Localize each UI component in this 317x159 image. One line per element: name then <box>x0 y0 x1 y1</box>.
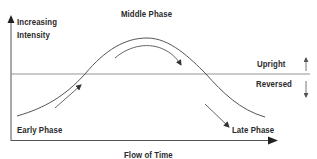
y-axis-label-line1: Increasing <box>17 17 57 27</box>
y-axis-arrow-icon <box>8 15 15 23</box>
upright-label: Upright <box>257 59 285 69</box>
late-phase-label: Late Phase <box>232 125 274 135</box>
x-axis <box>11 137 278 145</box>
y-axis-label-line2: Intensity <box>17 30 50 40</box>
y-axis <box>8 15 15 141</box>
x-axis-label: Flow of Time <box>124 150 173 159</box>
phase-diagram: Increasing Intensity Middle Phase Uprigh… <box>0 0 317 159</box>
peak-flow-arrow-icon <box>115 46 181 65</box>
early-phase-label: Early Phase <box>17 125 62 135</box>
x-axis-arrow-icon <box>268 137 278 145</box>
falling-arrow-icon <box>205 104 229 127</box>
intensity-curve <box>17 38 265 117</box>
middle-phase-label: Middle Phase <box>121 9 172 19</box>
reversed-label: Reversed <box>256 79 292 89</box>
